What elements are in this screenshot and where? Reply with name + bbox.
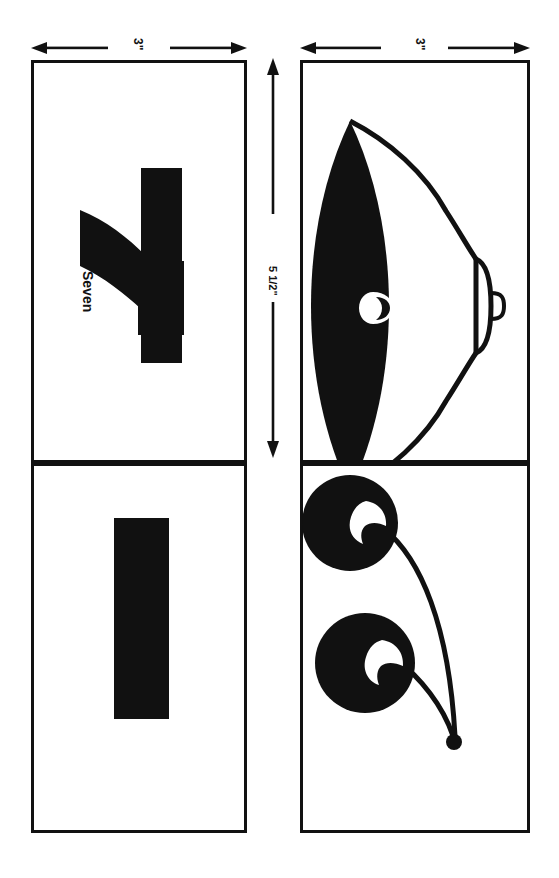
dimension-width-right-label: 3" [413,38,427,50]
panel-bell: Bell [300,60,530,463]
panel-label-seven: Seven [80,271,96,312]
panel-seven: Seven [31,60,247,463]
cherries-symbol [303,466,527,830]
bell-symbol [303,63,527,460]
panel-bar: Bar [31,463,247,833]
dimension-width-left-label: 3" [131,38,145,50]
panel-cherries: Cherries [300,463,530,833]
seven-symbol [34,63,244,460]
bar-symbol [34,466,244,830]
dimension-height-label: 5 1/2" [267,266,279,296]
dimension-height [262,58,284,458]
drawing-sheet: 3" 3" 5 1/2" Seven [0,0,559,878]
